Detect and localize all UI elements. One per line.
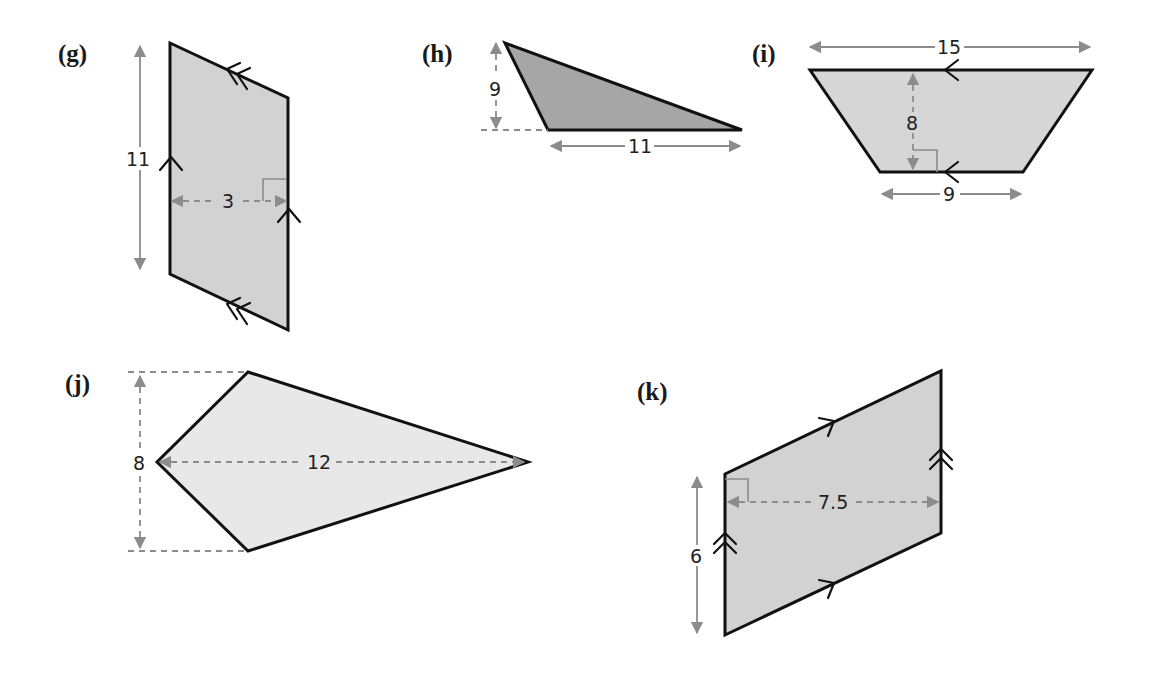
width-value-k: 7.5 xyxy=(818,491,848,513)
height-value-j: 8 xyxy=(133,452,145,474)
width-value-g: 3 xyxy=(222,190,234,212)
trapezium-i xyxy=(810,70,1092,172)
figure-label-j: (j) xyxy=(65,370,90,398)
width-value-j: 12 xyxy=(307,451,331,473)
height-value-h: 9 xyxy=(489,78,501,100)
figure-label-h: (h) xyxy=(422,40,453,68)
bottom-value-i: 9 xyxy=(943,183,955,205)
figure-g: (g) 11 3 xyxy=(58,40,300,330)
top-value-i: 15 xyxy=(937,36,961,58)
figure-i: (i) 15 8 9 xyxy=(752,36,1092,205)
figure-label-i: (i) xyxy=(752,40,776,68)
height-value-i: 8 xyxy=(906,112,918,134)
side-value-k: 6 xyxy=(690,545,702,567)
figure-label-k: (k) xyxy=(637,378,668,406)
area-figures-diagram: (g) 11 3 (h) 9 11 (i) xyxy=(0,0,1152,676)
parallelogram-g xyxy=(170,43,288,330)
figure-label-g: (g) xyxy=(58,40,87,68)
triangle-h xyxy=(505,43,742,130)
height-value-g: 11 xyxy=(126,148,150,170)
figure-k: (k) 6 7.5 xyxy=(637,371,952,635)
figure-h: (h) 9 11 xyxy=(422,40,742,157)
base-value-h: 11 xyxy=(628,135,652,157)
figure-j: (j) 8 12 xyxy=(65,370,528,551)
